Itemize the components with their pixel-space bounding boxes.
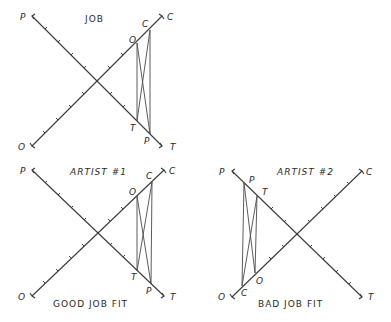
panel-title: ARTIST #1 [69,167,127,177]
label-o-end: O [18,292,25,302]
point-label-c: C [241,288,248,298]
label-p-end: P [219,167,225,177]
point-label-t: T [130,123,137,133]
label-t-end: T [368,292,375,302]
label-c-end: C [366,167,373,177]
profile-lines [137,30,150,134]
point-label-c: C [146,171,153,181]
label-t-end: T [170,292,177,302]
point-label-o: O [129,35,136,45]
profile-lines [242,183,257,286]
label-o-end: O [218,292,225,302]
label-p-end: P [20,166,26,176]
point-label-t: T [262,187,269,197]
point-label-t: T [131,272,138,282]
panel-job: P C O T O C T P JOB [18,12,177,152]
label-c-end: C [167,12,174,22]
label-c-end: C [169,166,176,176]
label-p-end: P [20,12,26,22]
label-t-end: T [170,142,177,152]
ticks-p-t [45,27,125,107]
point-label-c: C [142,19,149,29]
point-label-p: P [146,286,152,296]
panel-title: JOB [84,14,104,24]
panel-caption: BAD JOB FIT [258,299,323,309]
label-o-end: O [18,142,25,152]
panel-artist-1: P C O T O C T P ARTIST #1 GOOD JOB FIT [18,166,177,309]
point-label-p: P [144,136,150,146]
point-label-p: P [249,175,255,185]
panel-title: ARTIST #2 [276,167,334,177]
point-label-o: O [256,276,263,286]
panel-caption: GOOD JOB FIT [53,299,128,309]
panel-artist-2: P C O T P T C O ARTIST #2 BAD JOB FIT [218,167,375,309]
point-label-o: O [129,187,136,197]
ticks-o-c [269,182,349,259]
profile-lines [137,182,152,284]
job-fit-diagram: P C O T O C T P JOB [0,0,391,322]
